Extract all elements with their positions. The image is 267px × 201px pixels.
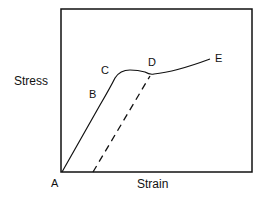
x-axis-label: Strain — [137, 178, 168, 190]
point-label-a: A — [51, 178, 58, 189]
y-axis-label: Stress — [14, 75, 48, 87]
unloading-dashed-line — [93, 76, 150, 172]
point-label-b: B — [89, 89, 96, 100]
point-label-c: C — [101, 65, 109, 76]
stress-strain-curve — [62, 59, 210, 172]
point-label-d: D — [148, 57, 156, 68]
stress-strain-diagram — [0, 0, 267, 201]
point-label-e: E — [215, 53, 222, 64]
